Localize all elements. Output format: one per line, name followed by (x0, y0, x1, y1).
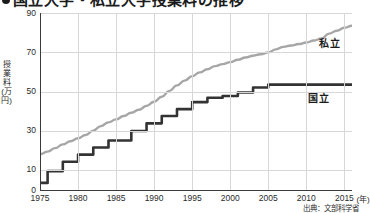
chart-title: 国立大学・私立大学授業料の推移 (2, 0, 244, 9)
gridline-vertical (192, 13, 193, 190)
x-tick-label: 2005 (259, 193, 278, 203)
gridline-horizontal (40, 92, 352, 93)
gridline-horizontal (40, 170, 352, 171)
gridline-horizontal (40, 52, 352, 53)
gridline-vertical (344, 13, 345, 190)
chart-title-strip: 国立大学・私立大学授業料の推移 (0, 0, 362, 9)
y-tick-label-group: 90 70 50 30 10 0 (8, 0, 36, 213)
chart-svg (40, 13, 352, 190)
x-tick-label: 1990 (145, 193, 164, 203)
y-tick-label: 10 (12, 164, 36, 174)
plot-area (40, 13, 352, 190)
series-label-national: 国立 (308, 90, 329, 105)
x-tick-label: 1980 (69, 193, 88, 203)
x-tick-label: 1985 (107, 193, 126, 203)
y-tick-label: 30 (12, 125, 36, 135)
gridline-vertical (268, 13, 269, 190)
y-tick-label: 90 (12, 8, 36, 18)
source-note: 出典：文部科学省 (303, 202, 359, 213)
gridline-horizontal (40, 131, 352, 132)
gridline-vertical (78, 13, 79, 190)
series-label-private: 私立 (319, 35, 340, 50)
gridline-horizontal (40, 13, 352, 14)
y-axis-line (40, 13, 41, 191)
y-tick-label: 70 (12, 47, 36, 57)
series-line-private (40, 26, 352, 154)
gridline-vertical (230, 13, 231, 190)
x-tick-label: 2000 (221, 193, 240, 203)
chart-title-text: 国立大学・私立大学授業料の推移 (13, 0, 244, 8)
gridline-vertical (116, 13, 117, 190)
x-axis-line (40, 190, 352, 191)
gridline-vertical (154, 13, 155, 190)
x-tick-label: 1995 (183, 193, 202, 203)
x-tick-label: 1975 (31, 193, 50, 203)
y-tick-label: 50 (12, 86, 36, 96)
